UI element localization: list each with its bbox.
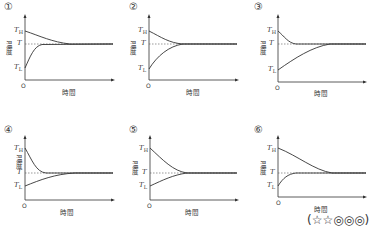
label-t-high: TH: [14, 27, 23, 35]
graph-panel-4: ④ TH T TL 温度 O 時間: [0, 120, 125, 220]
label-t-low: TL: [139, 182, 147, 190]
x-axis-label: 時間: [314, 88, 328, 98]
label-t-low: TL: [14, 64, 22, 72]
label-t-low: TL: [267, 182, 275, 190]
origin-label: O: [275, 84, 280, 91]
graph-panel-3: ③ TH T TL 温度 O 時間: [250, 0, 379, 100]
temperature-graph: [250, 0, 379, 100]
origin-label: O: [276, 199, 281, 206]
graph-panel-6: ⑥ TH T TL 温度 O 時間: [250, 120, 379, 220]
label-t-high: TH: [14, 145, 23, 153]
difficulty-rating: (☆☆◎◎◎): [307, 213, 369, 227]
y-axis-label: 温度: [129, 42, 137, 56]
y-axis-label: 温度: [5, 42, 13, 56]
temperature-graph: [0, 0, 125, 100]
label-t-equilibrium: T: [270, 169, 275, 176]
graph-panel-5: ⑤ TH T TL 温度 O 時間: [125, 120, 250, 220]
label-t-high: TH: [267, 145, 276, 153]
temperature-graph: [125, 0, 250, 100]
y-axis-label: 温度: [131, 162, 139, 176]
label-t-high: TH: [138, 27, 147, 35]
y-axis-label: 温度: [259, 42, 267, 56]
origin-label: O: [146, 82, 151, 89]
graph-panel-2: ② TH T TL 温度 O 時間: [125, 0, 250, 100]
label-t-high: TH: [267, 27, 276, 35]
label-t-equilibrium: T: [17, 169, 22, 176]
label-t-equilibrium: T: [142, 169, 147, 176]
label-t-equilibrium: T: [141, 40, 146, 47]
x-axis-label: 時間: [60, 207, 74, 217]
x-axis-label: 時間: [62, 87, 76, 97]
origin-label: O: [22, 202, 27, 209]
label-t-equilibrium: T: [17, 40, 22, 47]
y-axis-label: 温度: [259, 162, 267, 176]
label-t-low: TL: [14, 182, 22, 190]
y-axis-label: 温度: [15, 156, 23, 170]
label-t-low: TL: [138, 65, 146, 73]
label-t-high: TH: [139, 145, 148, 153]
origin-label: O: [21, 82, 26, 89]
graph-panel-1: ① TH T TL 温度 O 時間: [0, 0, 125, 100]
label-t-equilibrium: T: [269, 40, 274, 47]
label-t-low: TL: [268, 66, 276, 74]
x-axis-label: 時間: [186, 87, 200, 97]
x-axis-label: 時間: [185, 207, 199, 217]
origin-label: O: [147, 202, 152, 209]
